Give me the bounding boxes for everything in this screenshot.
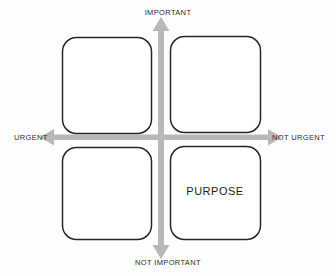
axis-label-important: IMPORTANT — [0, 9, 336, 17]
quadrant-box-bottom-left[interactable] — [63, 148, 152, 240]
matrix-diagram-canvas: IMPORTANT NOT IMPORTANT URGENT NOT URGEN… — [0, 0, 336, 276]
arrow-down-icon — [153, 245, 170, 259]
quadrant-label-bottom-right: PURPOSE — [170, 186, 260, 197]
quadrant-box-top-left[interactable] — [63, 38, 152, 134]
axis-label-not-urgent: NOT URGENT — [272, 134, 325, 142]
quadrant-box-top-right[interactable] — [171, 37, 261, 133]
axis-label-not-important: NOT IMPORTANT — [0, 259, 336, 267]
axis-label-urgent: URGENT — [14, 134, 48, 142]
arrow-up-icon — [153, 17, 170, 31]
